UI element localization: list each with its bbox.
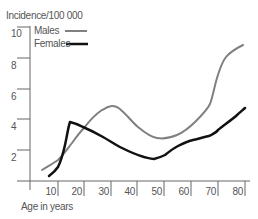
x-tick-40: 40 <box>115 187 135 197</box>
y-tick-2: 2 <box>11 153 25 163</box>
x-tick-80: 80 <box>223 187 243 197</box>
y-tick-6: 6 <box>11 92 25 102</box>
x-tick-30: 30 <box>89 187 109 197</box>
y-tick-10: 10 <box>11 29 25 39</box>
incidence-chart: Incidence/100 000 Males Females 10 8 6 4… <box>0 0 258 219</box>
x-axis-label: Age in years <box>21 202 73 212</box>
legend-label-males: Males <box>34 26 59 36</box>
y-tick-4: 4 <box>11 122 25 132</box>
x-tick-50: 50 <box>142 187 162 197</box>
x-tick-20: 20 <box>62 187 82 197</box>
y-tick-8: 8 <box>11 61 25 71</box>
females-line <box>49 108 245 176</box>
legend-label-females: Females <box>34 39 70 49</box>
y-axis-label: Incidence/100 000 <box>6 11 83 21</box>
x-tick-70: 70 <box>196 187 216 197</box>
males-line <box>42 45 243 170</box>
x-tick-60: 60 <box>169 187 189 197</box>
x-tick-10: 10 <box>36 187 56 197</box>
